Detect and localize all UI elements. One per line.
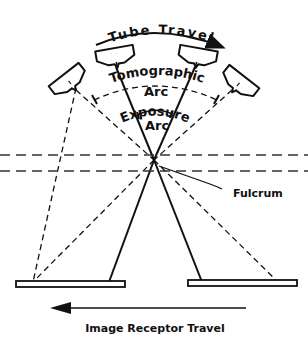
receptor-left [16, 281, 125, 287]
image-receptor-travel-label: Image Receptor Travel [85, 322, 225, 335]
tomography-diagram: Tube Travel Tomographic Arc Exposure [0, 0, 308, 345]
dashed-beam-left-lower [154, 160, 278, 282]
receptor-travel-arrowhead-icon [50, 302, 71, 314]
receptor-right [188, 280, 297, 286]
tomographic-arc-group: Tomographic Arc [92, 63, 219, 104]
solid-beam-right-lower [109, 160, 154, 282]
dashed-beam-left-upper [33, 88, 76, 282]
central-beam-lines [109, 67, 202, 282]
exposure-arc-label: Arc [145, 118, 169, 133]
tomographic-arc-label: Arc [144, 84, 168, 99]
fulcrum-label: Fulcrum [233, 187, 283, 200]
tube-far-left [49, 63, 91, 102]
dashed-beam-right-lower [33, 160, 154, 282]
exposure-arc-group: Exposure Arc [118, 103, 193, 133]
fulcrum-leader-line [159, 166, 222, 189]
dashed-beam-left [76, 90, 154, 160]
tube-travel-group: Tube Travel [96, 22, 222, 47]
receptor-travel-group: Image Receptor Travel [50, 302, 246, 335]
